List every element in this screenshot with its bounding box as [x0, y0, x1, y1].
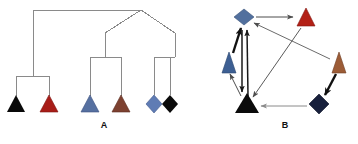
panel-label-a: A	[94, 120, 114, 130]
edge-black-triangle-to-blue-diamond	[247, 30, 248, 96]
figure-canvas	[0, 0, 358, 144]
panel-label-b: B	[275, 120, 295, 130]
